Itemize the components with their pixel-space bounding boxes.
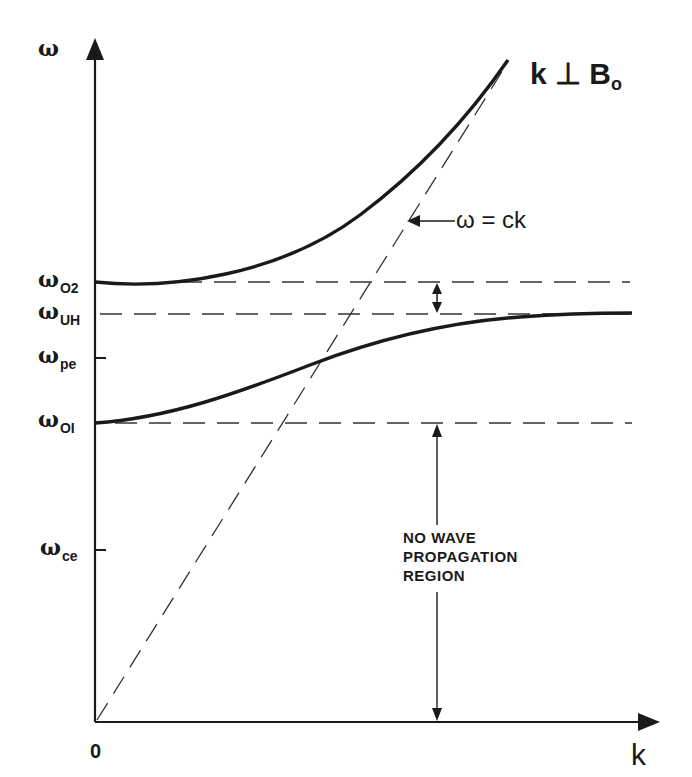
omega-symbol: ω (38, 266, 59, 292)
x-axis-label: k (631, 738, 646, 772)
light-line-label: ω = ck (456, 206, 526, 234)
region-label-line: REGION (403, 566, 518, 585)
omega-symbol: ω (38, 298, 59, 324)
omega-symbol: ω (38, 342, 59, 368)
y-axis (86, 38, 104, 722)
gap-double-arrow (432, 283, 442, 313)
label-wo1: ωOI (38, 406, 75, 436)
subscript: O2 (60, 280, 79, 296)
title-label: k ⊥ Bo (530, 56, 622, 95)
subscript: ce (62, 548, 78, 564)
label-wpe: ωpe (38, 342, 76, 372)
region-label-line: NO WAVE (403, 528, 518, 547)
title-main: k ⊥ B (530, 57, 611, 90)
omega-symbol: ω (40, 534, 61, 560)
origin-label: 0 (90, 740, 101, 763)
upper-branch-curve (95, 60, 508, 284)
label-wuh: ωUH (38, 298, 80, 328)
subscript: UH (60, 312, 80, 328)
no-propagation-region-label: NO WAVE PROPAGATION REGION (403, 528, 518, 585)
lower-branch-curve (95, 313, 632, 423)
subscript: pe (60, 356, 76, 372)
title-subscript: o (611, 74, 622, 94)
label-wo2: ωO2 (38, 266, 79, 296)
omega-symbol: ω (38, 406, 59, 432)
region-label-line: PROPAGATION (403, 547, 518, 566)
light-line-w-ck (97, 62, 508, 720)
dispersion-diagram (0, 0, 692, 777)
y-axis-label: ω (38, 35, 59, 61)
x-axis (95, 713, 660, 731)
subscript: OI (60, 420, 75, 436)
label-wce: ωce (40, 534, 78, 564)
